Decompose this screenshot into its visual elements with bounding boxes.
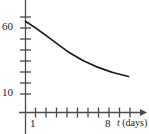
x-axis-arrow-icon bbox=[140, 109, 147, 116]
decay-curve bbox=[26, 22, 129, 77]
x-axis-title: t (days) bbox=[117, 118, 147, 128]
x-axis-title-units: (days) bbox=[122, 117, 147, 128]
exponential-decay-chart: 60 10 1 8 t (days) bbox=[0, 0, 149, 134]
x-axis-label-8: 8 bbox=[105, 118, 111, 129]
chart-canvas bbox=[0, 0, 149, 134]
y-axis-label-60: 60 bbox=[2, 21, 13, 32]
y-axis-label-10: 10 bbox=[2, 87, 13, 98]
x-axis-label-1: 1 bbox=[30, 118, 36, 129]
